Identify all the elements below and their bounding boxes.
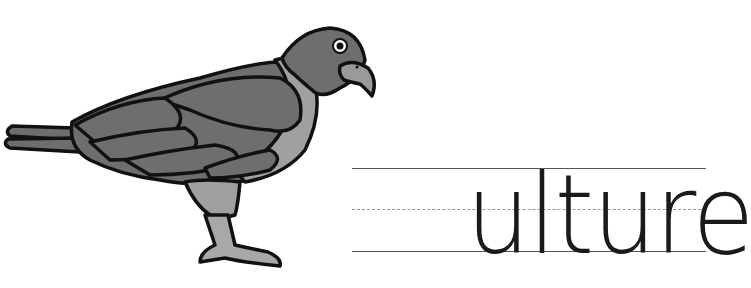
- vulture-bird-icon: [0, 0, 400, 288]
- handwriting-guide: ulture: [352, 160, 706, 260]
- partial-word-text: ulture: [466, 160, 751, 270]
